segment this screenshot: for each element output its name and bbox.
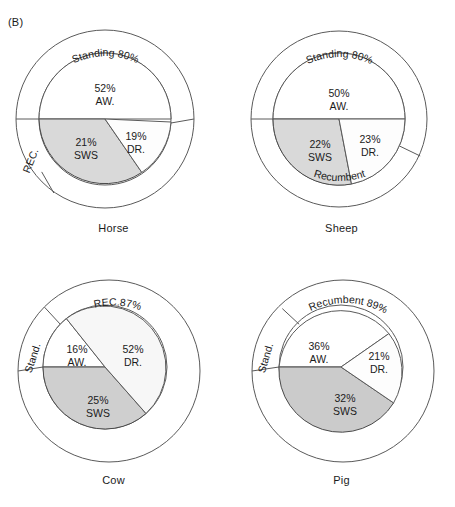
wedge-aw-state: AW. (96, 95, 115, 107)
chart-caption-pig: Pig (228, 474, 455, 486)
wedge-dr-state: DR. (361, 146, 379, 158)
chart-horse-svg: Standing 80% REC. 52% AW. 21% SWS 19% DR… (0, 0, 227, 253)
chart-pig: Recumbent 89% Stand. 36% AW. 32% SWS 21%… (228, 254, 455, 507)
wedge-aw-value: 50% (328, 87, 349, 99)
wedge-sws-value: 22% (309, 138, 330, 150)
wedge-aw-state: AW. (68, 356, 87, 368)
ring-divider (42, 172, 54, 193)
wedge-dr-state: DR. (127, 143, 145, 155)
wedge-sws-state: SWS (333, 405, 357, 417)
wedge-aw-state: AW. (310, 353, 329, 365)
wedge-dr-value: 52% (122, 343, 143, 355)
wedge-dr-state: DR. (370, 363, 388, 375)
chart-cow: REC.87% Stand. 16% AW. 25% SWS 52% DR. C… (0, 254, 227, 507)
chart-horse: Standing 80% REC. 52% AW. 21% SWS 19% DR… (0, 0, 227, 253)
chart-caption-cow: Cow (0, 474, 227, 486)
chart-sheep: Standing 80% Recumbent 50% AW. 22% SWS 2… (228, 0, 455, 253)
ring-divider (45, 307, 61, 325)
figure-root: (B) Standing 80% REC. 52% AW. 21% SWS 19… (0, 0, 455, 507)
ring-label-rec: REC. (20, 147, 41, 175)
ring-divider (282, 309, 299, 325)
ring-label-stand: Stand. (22, 341, 43, 374)
chart-caption-sheep: Sheep (228, 222, 455, 234)
wedge-aw-value: 52% (94, 82, 115, 94)
wedge-sws-state: SWS (74, 149, 98, 161)
wedge-dr-state: DR. (124, 356, 142, 368)
wedge-sws-state: SWS (86, 407, 110, 419)
wedge-dr-value: 19% (125, 130, 146, 142)
chart-pig-svg: Recumbent 89% Stand. 36% AW. 32% SWS 21%… (228, 254, 455, 507)
wedge-dr-value: 21% (368, 350, 389, 362)
wedge-aw-state: AW. (330, 100, 349, 112)
wedge-aw-value: 16% (66, 343, 87, 355)
wedge-sws-value: 21% (75, 136, 96, 148)
ring-divider (400, 146, 421, 156)
wedge-sws-state: SWS (308, 151, 332, 163)
chart-caption-horse: Horse (0, 222, 227, 234)
chart-sheep-svg: Standing 80% Recumbent 50% AW. 22% SWS 2… (228, 0, 455, 253)
ring-divider (171, 119, 194, 123)
wedge-dr-value: 23% (359, 133, 380, 145)
ring-label-stand: Stand. (255, 342, 275, 374)
wedge-aw-value: 36% (308, 340, 329, 352)
wedge-sws-value: 32% (334, 392, 355, 404)
chart-cow-svg: REC.87% Stand. 16% AW. 25% SWS 52% DR. (0, 254, 227, 507)
wedge-sws-value: 25% (87, 394, 108, 406)
